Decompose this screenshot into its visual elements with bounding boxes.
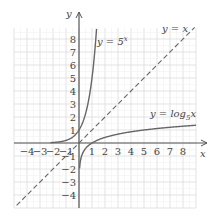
y-tick-label: 1 [70, 125, 76, 136]
y-tick-label: 2 [70, 112, 76, 123]
y-tick-label: −3 [61, 177, 76, 188]
y-tick-label: 3 [70, 99, 76, 110]
y-tick-label: −2 [61, 164, 76, 175]
y-tick-label: 7 [70, 47, 76, 58]
identity-line-label: y = x [161, 23, 188, 34]
x-tick-label: 3 [115, 146, 121, 157]
chart-svg: −4−3−2−112345678−4−3−2−112345678 x y y =… [0, 0, 218, 222]
x-tick-label: 2 [102, 146, 108, 157]
y-tick-label: −1 [61, 151, 76, 162]
exp-curve-label: y = 5x [96, 35, 128, 47]
log-curve [80, 125, 196, 168]
x-tick-label: 5 [141, 146, 147, 157]
x-tick-label: 1 [89, 146, 95, 157]
y-axis-label: y [65, 8, 72, 19]
x-tick-label: 6 [154, 146, 160, 157]
y-tick-label: −4 [61, 190, 76, 201]
x-tick-label: 4 [128, 146, 134, 157]
y-tick-label: 8 [70, 34, 76, 45]
chart-container: −4−3−2−112345678−4−3−2−112345678 x y y =… [0, 0, 218, 222]
x-tick-label: 7 [167, 146, 173, 157]
x-tick-label: 8 [180, 146, 186, 157]
x-axis-label: x [200, 148, 206, 159]
y-tick-label: 5 [70, 73, 76, 84]
y-tick-label: 4 [70, 86, 76, 97]
y-tick-label: 6 [70, 60, 76, 71]
